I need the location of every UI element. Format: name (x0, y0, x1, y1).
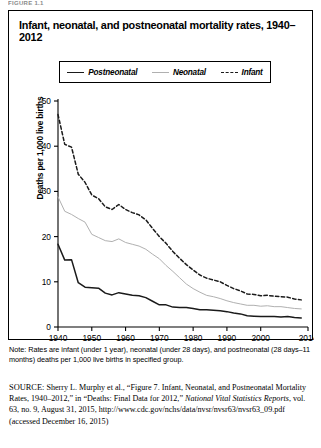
x-tick-label: 1980 (184, 333, 203, 341)
source-label: SOURCE: (9, 383, 44, 392)
mortality-line-chart: 0102030405019401950196019701980199020002… (9, 11, 314, 341)
x-tick-label: 1970 (150, 333, 169, 341)
x-tick-label: 1950 (82, 333, 101, 341)
chart-note: Note: Rates are infant (under 1 year), n… (9, 345, 313, 364)
series-line-postneonatal (58, 244, 301, 318)
plot-area: Deaths per 1,000 live births 01020304050… (9, 11, 314, 341)
figure-box: Infant, neonatal, and postneonatal morta… (8, 10, 313, 340)
x-tick-label: 1960 (116, 333, 135, 341)
y-tick-label: 10 (42, 277, 52, 287)
series-line-neonatal (58, 197, 301, 309)
y-tick-label: 0 (46, 322, 51, 332)
figure-page: FIGURE 1.1 Infant, neonatal, and postneo… (0, 0, 321, 448)
y-tick-label: 30 (42, 186, 52, 196)
series-line-infant (58, 115, 301, 300)
source-publication: National Vital Statistics Reports (185, 394, 289, 403)
figure-label: FIGURE 1.1 (8, 0, 44, 7)
note-line-1: Note: Rates are infant (under 1 year), n… (9, 345, 269, 354)
x-tick-label: 1940 (49, 333, 68, 341)
x-tick-label: 2014 (299, 333, 314, 341)
x-tick-label: 1990 (218, 333, 237, 341)
y-tick-label: 20 (42, 232, 52, 242)
x-tick-label: 2000 (251, 333, 270, 341)
y-tick-label: 40 (42, 141, 52, 151)
chart-source: SOURCE: Sherry L. Murphy et al., “Figure… (9, 382, 309, 427)
y-tick-label: 50 (42, 96, 52, 106)
